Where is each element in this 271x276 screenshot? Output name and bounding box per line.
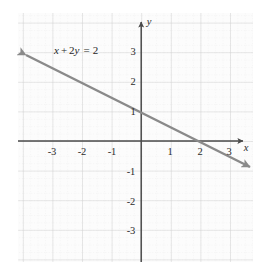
y-tick-label--1: -1 (127, 166, 136, 177)
y-axis-label: y (146, 16, 152, 27)
equation-plus: + (61, 44, 67, 56)
x-tick-label--2: -2 (78, 146, 87, 157)
x-tick-label-2: 2 (197, 146, 202, 157)
x-tick-label-1: 1 (167, 146, 172, 157)
x-tick-label--1: -1 (108, 146, 117, 157)
y-tick-label--2: -2 (127, 196, 136, 207)
y-tick-label-3: 3 (130, 46, 135, 57)
x-axis-label: x (243, 142, 249, 153)
y-tick-label-1: 1 (130, 106, 135, 117)
x-tick-label--3: -3 (48, 146, 57, 157)
equation-rhs: 2 (93, 44, 99, 56)
y-tick-label--3: -3 (127, 225, 136, 236)
y-tick-label-2: 2 (130, 76, 135, 87)
coordinate-plane-chart: x y -3 -2 -1 1 2 3 3 2 1 -1 -2 -3 x+2y=2 (0, 0, 271, 276)
equation-var-y: y (74, 44, 80, 56)
equation-equals: = (84, 44, 90, 56)
x-tick-label-3: 3 (226, 146, 231, 157)
graph-figure: x y -3 -2 -1 1 2 3 3 2 1 -1 -2 -3 x+2y=2 (0, 0, 271, 276)
equation-var-x: x (53, 44, 59, 56)
